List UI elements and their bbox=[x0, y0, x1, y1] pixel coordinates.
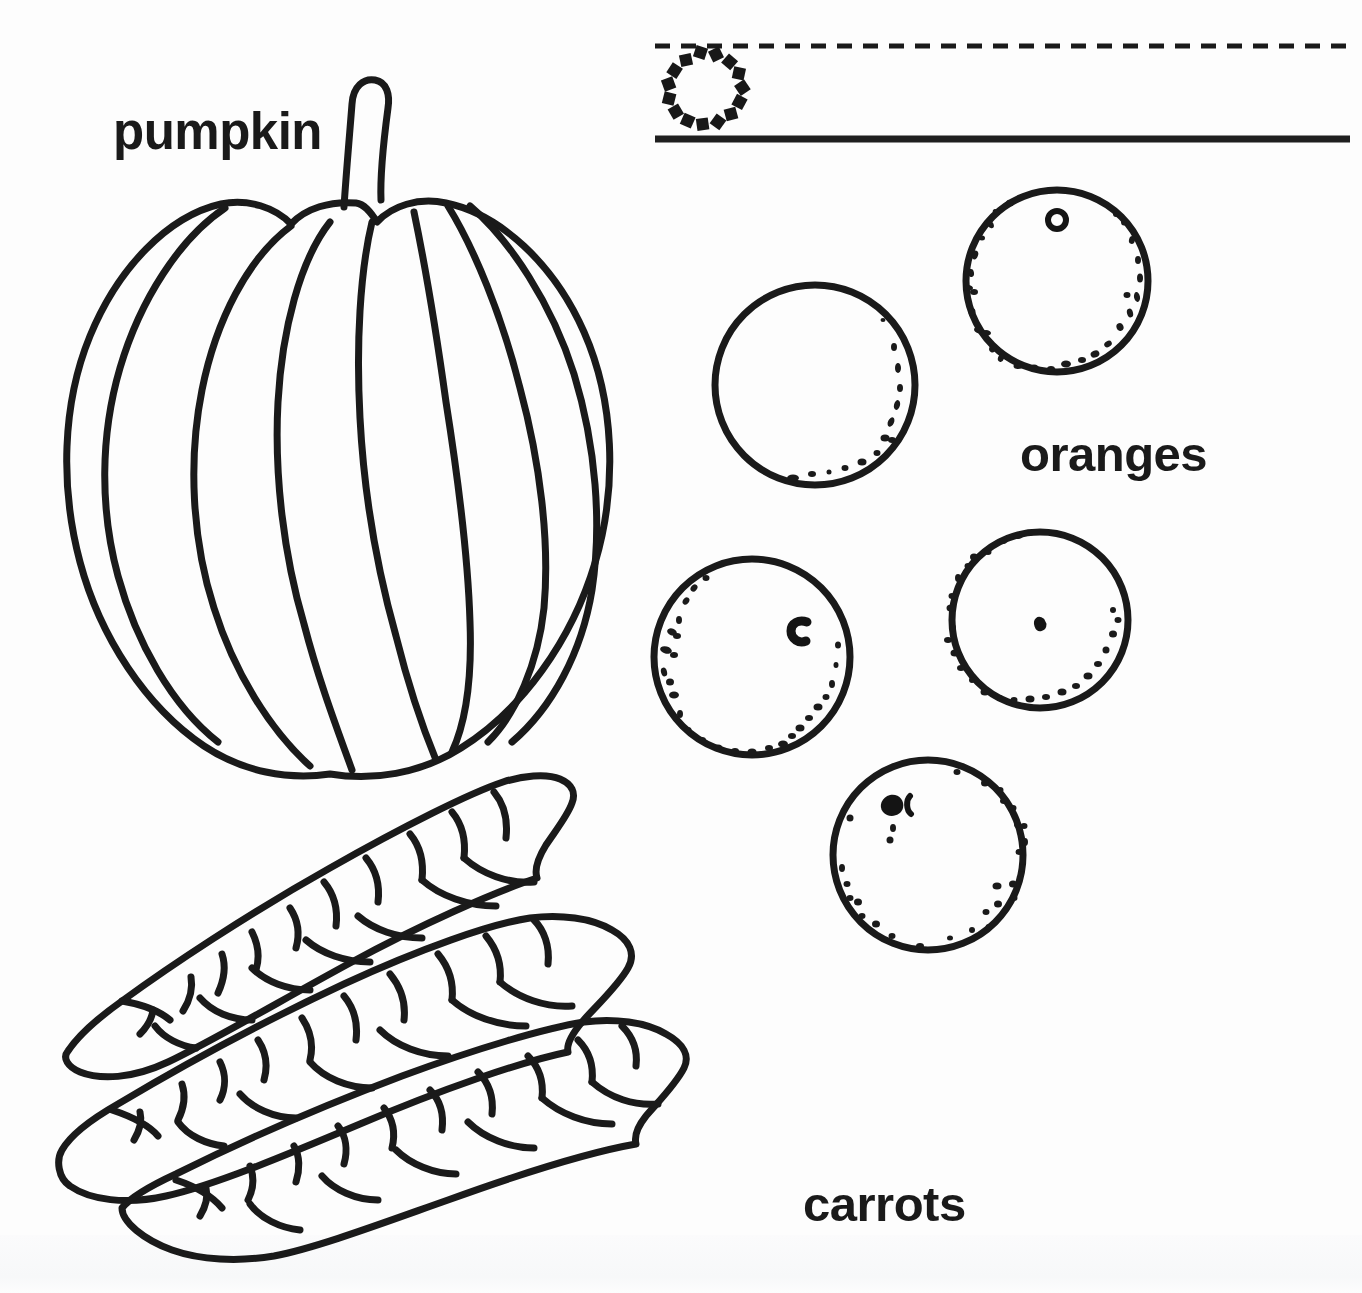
carrot-3-ridge-7 bbox=[478, 1072, 492, 1114]
carrot-3-ridge-10 bbox=[622, 1026, 636, 1066]
label-carrots: carrots bbox=[803, 1180, 966, 1229]
carrot-1-ridge-8 bbox=[410, 834, 423, 880]
carrot-3-ridge-4 bbox=[338, 1126, 346, 1164]
label-oranges: oranges bbox=[1020, 430, 1207, 479]
pumpkin-stem bbox=[344, 80, 389, 207]
carrot-2-crown-4 bbox=[310, 1062, 372, 1088]
carrot-2-crown-6 bbox=[178, 1122, 224, 1146]
carrot-3-crown-6 bbox=[250, 1204, 300, 1230]
carrot-1-ridge-3 bbox=[218, 954, 224, 993]
carrot-1-crown-6 bbox=[155, 1026, 196, 1048]
carrot-1-crown-1 bbox=[422, 880, 496, 906]
carrot-3-crown-4 bbox=[396, 1150, 456, 1174]
carrot-1-ridge-7 bbox=[366, 858, 379, 902]
pumpkin-rib-2 bbox=[277, 222, 352, 770]
carrot-1-crown-5 bbox=[200, 998, 252, 1020]
orange-top-right bbox=[963, 190, 1148, 372]
carrot-1-ridge-9 bbox=[452, 812, 465, 858]
carrot-2-ridge-8 bbox=[438, 954, 452, 1000]
label-pumpkin: pumpkin bbox=[113, 106, 322, 157]
carrot-1-ridge-6 bbox=[324, 882, 337, 926]
oranges-illustration bbox=[654, 190, 1148, 951]
orange-bottom bbox=[833, 760, 1028, 951]
carrot-2-ridge-2 bbox=[178, 1084, 184, 1120]
orange-stipple bbox=[659, 575, 841, 756]
carrot-1-ridge-5 bbox=[290, 908, 298, 948]
carrot-2-crown-5 bbox=[240, 1094, 296, 1118]
carrot-2-ridge-7 bbox=[390, 974, 404, 1020]
carrots-illustration bbox=[59, 776, 687, 1260]
carrot-2-ridge-6 bbox=[344, 996, 357, 1040]
carrot-3-crown-5 bbox=[322, 1176, 378, 1200]
orange-middle-right bbox=[944, 529, 1128, 708]
carrot-3-ridge-6 bbox=[430, 1090, 443, 1130]
orange-navel-ring-icon bbox=[1048, 211, 1066, 229]
carrot-2-ridge-3 bbox=[220, 1062, 225, 1100]
carrot-3-crown-2 bbox=[592, 1082, 658, 1104]
carrot-1-tip-line bbox=[122, 1001, 170, 1020]
carrot-1-crown-3 bbox=[306, 940, 370, 962]
carrot-1-crown-4 bbox=[252, 968, 310, 990]
carrot-3-ridge-2 bbox=[248, 1166, 253, 1200]
orange-navel-dot-icon bbox=[1035, 618, 1045, 629]
carrot-3-ridge-3 bbox=[294, 1146, 299, 1182]
carrot-2-crown-2 bbox=[500, 982, 572, 1006]
carrot-2-crown-1 bbox=[452, 1000, 526, 1026]
carrot-1-ridge-2 bbox=[183, 977, 192, 1011]
carrot-2-crown-3 bbox=[380, 1030, 448, 1056]
carrot-3-ridge-9 bbox=[578, 1040, 592, 1082]
orange-plain-left bbox=[715, 285, 915, 485]
carrot-1-ridge-4 bbox=[252, 932, 258, 970]
worksheet-page: pumpkin oranges carrots bbox=[0, 0, 1362, 1293]
worksheet-artwork bbox=[0, 0, 1362, 1293]
orange-middle-left bbox=[654, 559, 850, 756]
carrot-1-ridge-1 bbox=[140, 1010, 153, 1034]
dotted-letter-o-icon[interactable] bbox=[661, 45, 751, 131]
carrot-3-crown-3 bbox=[468, 1122, 534, 1148]
carrot-2-ridge-9 bbox=[486, 936, 500, 982]
carrot-3-crown-1 bbox=[542, 1098, 612, 1124]
carrot-1-ridge-10 bbox=[494, 792, 507, 838]
carrot-2-ridge-10 bbox=[534, 920, 548, 964]
pumpkin-rib-3 bbox=[359, 222, 437, 760]
pumpkin-rib-4 bbox=[414, 212, 470, 752]
orange-navel-blob-icon bbox=[881, 795, 911, 816]
carrot-2-ridge-5 bbox=[302, 1018, 312, 1060]
pumpkin-illustration bbox=[67, 80, 610, 777]
letter-o-tracing-row[interactable] bbox=[655, 45, 1356, 139]
orange-navel-c-mark-icon bbox=[791, 621, 807, 642]
carrot-1-crown-2 bbox=[464, 858, 534, 882]
pumpkin-body-outline bbox=[67, 201, 610, 776]
carrot-2-ridge-4 bbox=[258, 1040, 266, 1080]
